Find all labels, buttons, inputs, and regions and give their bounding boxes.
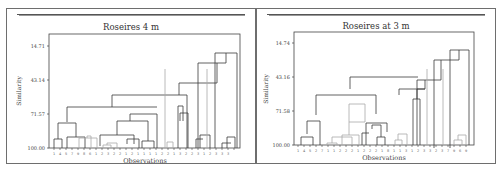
svg-text:1: 1 — [95, 152, 97, 156]
svg-text:1: 1 — [393, 149, 395, 153]
svg-text:2: 2 — [315, 149, 317, 153]
right-ytick-2: 43.16 — [276, 74, 290, 80]
svg-text:8: 8 — [83, 152, 85, 156]
right-dendrogram: 14.74 43.16 71.58 100.00 Similarity Obse… — [257, 9, 497, 165]
right-ytick-1: 14.74 — [276, 40, 290, 46]
svg-text:1: 1 — [155, 152, 157, 156]
right-ylabel: Similarity — [262, 74, 270, 104]
left-ytick-1: 14.71 — [31, 43, 45, 49]
svg-text:5: 5 — [309, 149, 311, 153]
svg-text:2: 2 — [417, 149, 419, 153]
svg-text:1: 1 — [143, 152, 145, 156]
svg-text:2: 2 — [191, 152, 193, 156]
svg-text:1: 1 — [357, 149, 359, 153]
svg-text:9: 9 — [453, 149, 455, 153]
svg-text:2: 2 — [167, 152, 169, 156]
svg-text:4: 4 — [303, 149, 306, 153]
svg-text:2: 2 — [363, 149, 365, 153]
left-ytick-3: 71.57 — [31, 111, 45, 117]
svg-text:1: 1 — [399, 149, 401, 153]
svg-text:2: 2 — [339, 149, 341, 153]
svg-text:6: 6 — [459, 149, 461, 153]
left-chart-panel: Roseires 4 m 14.71 43.14 71.57 100.00 Si… — [6, 8, 256, 164]
left-ylabel: Similarity — [15, 76, 23, 106]
left-ytick-2: 43.14 — [31, 77, 45, 83]
svg-text:2: 2 — [185, 152, 187, 156]
svg-text:1: 1 — [381, 149, 383, 153]
svg-text:2: 2 — [131, 152, 133, 156]
svg-text:9: 9 — [77, 152, 79, 156]
svg-text:2: 2 — [435, 149, 437, 153]
left-dendrogram: 14.71 43.14 71.57 100.00 Similarity Obse… — [7, 9, 257, 165]
svg-text:3: 3 — [215, 152, 217, 156]
svg-text:5: 5 — [65, 152, 67, 156]
svg-text:2: 2 — [351, 149, 353, 153]
right-xlabel: Observations — [362, 154, 405, 162]
right-chart-panel: Roseires at 3 m 14.74 43.16 71.58 100.00… — [256, 8, 496, 164]
svg-text:3: 3 — [107, 152, 109, 156]
svg-text:3: 3 — [179, 152, 181, 156]
svg-text:7: 7 — [71, 152, 73, 156]
svg-text:4: 4 — [59, 152, 62, 156]
svg-text:3: 3 — [221, 152, 223, 156]
svg-text:1: 1 — [297, 149, 299, 153]
svg-text:1: 1 — [173, 152, 175, 156]
svg-text:6: 6 — [89, 152, 91, 156]
svg-text:1: 1 — [53, 152, 55, 156]
svg-text:1: 1 — [137, 152, 139, 156]
left-ytick-4: 100.00 — [28, 145, 46, 151]
svg-text:1: 1 — [149, 152, 151, 156]
svg-text:3: 3 — [441, 149, 443, 153]
right-ytick-4: 100.00 — [273, 142, 291, 148]
svg-text:7: 7 — [447, 149, 449, 153]
right-ytick-3: 71.58 — [276, 108, 290, 114]
svg-text:2: 2 — [119, 152, 121, 156]
svg-text:3: 3 — [197, 152, 199, 156]
left-xlabel: Observations — [123, 157, 166, 165]
svg-text:3: 3 — [405, 149, 407, 153]
svg-text:3: 3 — [429, 149, 431, 153]
svg-text:1: 1 — [333, 149, 335, 153]
svg-text:3: 3 — [423, 149, 425, 153]
svg-text:2: 2 — [113, 152, 115, 156]
svg-text:1: 1 — [125, 152, 127, 156]
svg-text:2: 2 — [101, 152, 103, 156]
svg-text:2: 2 — [161, 152, 163, 156]
svg-text:1: 1 — [327, 149, 329, 153]
svg-text:1: 1 — [203, 152, 205, 156]
svg-text:2: 2 — [345, 149, 347, 153]
svg-text:2: 2 — [369, 149, 371, 153]
svg-text:7: 7 — [321, 149, 323, 153]
svg-text:2: 2 — [209, 152, 211, 156]
svg-text:8: 8 — [387, 149, 389, 153]
svg-text:9: 9 — [465, 149, 467, 153]
svg-text:3: 3 — [227, 152, 229, 156]
svg-text:1: 1 — [411, 149, 413, 153]
svg-text:2: 2 — [375, 149, 377, 153]
